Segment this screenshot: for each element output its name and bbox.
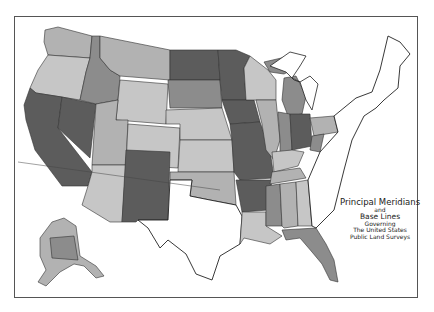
state-wyoming [116, 80, 168, 124]
state-alabama [280, 182, 298, 228]
state-mississippi [266, 184, 282, 226]
state-ohio [290, 114, 312, 150]
state-indiana [278, 112, 292, 154]
state-iowa [222, 100, 260, 124]
state-north-dakota [170, 50, 220, 80]
map-legend: Principal Meridians and Base Lines Gover… [332, 198, 428, 240]
legend-line-6: Public Land Surveys [332, 234, 428, 240]
alaska-meridian-region [50, 236, 78, 260]
us-map [0, 0, 434, 312]
state-south-dakota [168, 80, 222, 108]
state-pennsylvania [310, 116, 338, 136]
state-new-mexico [122, 150, 170, 222]
state-florida [282, 228, 338, 282]
state-washington [44, 27, 92, 58]
state-kansas [178, 140, 234, 172]
